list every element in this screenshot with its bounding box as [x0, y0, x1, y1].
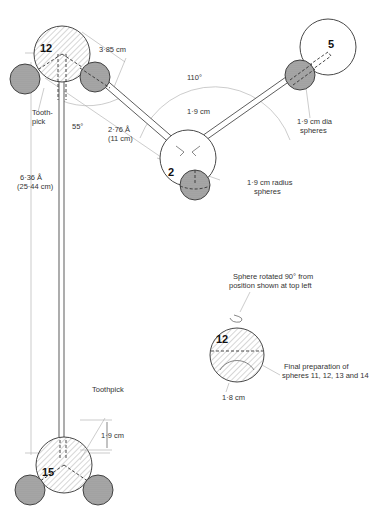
sphere-12-detail-label: 12 — [216, 333, 228, 345]
sphere-15-label: 15 — [42, 466, 54, 478]
angle-arc-55 — [60, 95, 125, 106]
label-rotated-2: position shown at top left — [229, 281, 312, 290]
label-bond-636-1: 6·36 Å — [20, 173, 42, 182]
label-dim-19-bottom: 1·9 cm — [101, 431, 124, 440]
label-bond-276-2: (11 cm) — [108, 134, 133, 143]
sphere-2-label: 2 — [168, 166, 174, 178]
diagram-canvas: 12 2 5 15 12 3·85 cm 110° 1·9 cm Tooth- … — [0, 0, 373, 506]
label-final-1: Final preparation of — [284, 362, 350, 371]
label-dim-385: 3·85 cm — [99, 45, 126, 54]
label-radius-19-1: 1·9 cm radius — [247, 178, 293, 187]
sphere-12-label: 12 — [40, 42, 52, 54]
small-sphere-15-right — [83, 475, 113, 505]
label-angle-110: 110° — [187, 73, 202, 82]
label-radius-19-2: spheres — [254, 187, 281, 196]
small-sphere-12-left — [10, 64, 40, 94]
rod-12-to-15 — [59, 55, 64, 455]
label-toothpick-bottom: Toothpick — [92, 385, 124, 394]
label-angle-55: 55° — [72, 122, 83, 131]
label-toothpick-top-2: pick — [32, 117, 46, 126]
small-sphere-12-right — [80, 62, 110, 92]
label-bond-276-1: 2·76 Å — [108, 125, 130, 134]
rotation-arrow-icon — [230, 315, 242, 322]
small-sphere-5 — [285, 60, 315, 90]
label-bond-636-2: (25·44 cm) — [17, 182, 54, 191]
label-toothpick-top-1: Tooth- — [32, 108, 53, 117]
label-dia-19-1: 1·9 cm dia — [297, 117, 333, 126]
label-dim-19-top: 1·9 cm — [187, 107, 210, 116]
label-rotated-1: Sphere rotated 90° from — [233, 272, 313, 281]
label-dia-19-2: spheres — [300, 126, 327, 135]
molecular-model-diagram: 12 2 5 15 12 3·85 cm 110° 1·9 cm Tooth- … — [0, 0, 373, 506]
label-final-2: spheres 11, 12, 13 and 14 — [282, 371, 369, 380]
label-dim-18: 1·8 cm — [222, 393, 245, 402]
sphere-5-label: 5 — [328, 38, 334, 50]
small-sphere-15-left — [15, 475, 45, 505]
small-sphere-2-bottom — [180, 170, 210, 200]
